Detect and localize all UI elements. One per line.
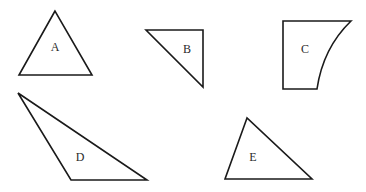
triangle-e-outline — [225, 118, 312, 179]
shape-e-label: E — [249, 150, 256, 164]
triangle-b-outline — [146, 30, 203, 87]
shape-c-label: C — [301, 42, 309, 56]
triangle-d-outline — [18, 93, 147, 180]
shape-b-label: B — [183, 42, 191, 56]
shape-c: C — [283, 21, 351, 89]
shape-b: B — [146, 30, 203, 87]
shapes-diagram: A B C D E — [0, 0, 366, 192]
shape-a: A — [19, 11, 92, 75]
shape-d: D — [18, 93, 147, 180]
shape-d-label: D — [76, 150, 85, 164]
diagram-svg: A B C D E — [0, 0, 366, 192]
shape-a-label: A — [51, 40, 60, 54]
shape-e: E — [225, 118, 312, 179]
curved-shape-c-outline — [283, 21, 351, 89]
